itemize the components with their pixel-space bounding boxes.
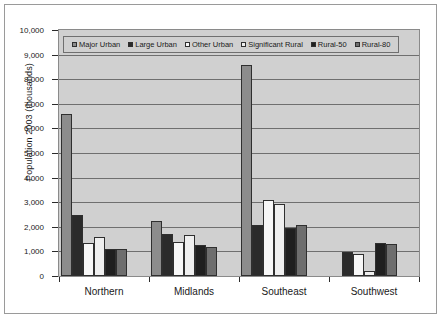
legend-label: Rural-50 [318, 40, 347, 49]
x-axis-tick-mark [329, 277, 330, 282]
y-axis-tick-mark [52, 55, 58, 56]
bar-group [149, 30, 239, 276]
y-axis-tick-label: 5,000 [0, 149, 44, 158]
legend-item: Major Urban [72, 40, 120, 49]
bar [274, 204, 285, 276]
x-axis-tick-mark [419, 277, 420, 282]
bar [296, 225, 307, 276]
y-axis-tick-label: 9,000 [0, 51, 44, 60]
y-axis-tick-mark [52, 227, 58, 228]
bar-group [239, 30, 329, 276]
y-axis-tick-mark [52, 104, 58, 105]
bar-group [59, 30, 149, 276]
legend-item: Other Urban [185, 40, 233, 49]
y-axis-tick-label: 0 [0, 272, 44, 281]
bar [94, 237, 105, 276]
bar [342, 252, 353, 276]
y-axis-tick-label: 2,000 [0, 223, 44, 232]
x-axis-category-label: Southeast [239, 286, 329, 297]
legend-label: Large Urban [135, 40, 177, 49]
legend-swatch-icon [185, 42, 190, 47]
bar-group [329, 30, 419, 276]
legend-swatch-icon [355, 42, 360, 47]
bar [195, 245, 206, 276]
chart-frame: Population 2003 (thousands) 10,0009,0008… [4, 4, 437, 314]
y-axis-tick-label: 4,000 [0, 174, 44, 183]
bar [72, 215, 83, 277]
bars-layer [59, 30, 419, 276]
y-axis-tick-label: 3,000 [0, 198, 44, 207]
bar [151, 221, 162, 276]
y-axis-tick-mark [52, 30, 58, 31]
x-axis-tick-mark [59, 277, 60, 282]
y-axis-tick-label: 7,000 [0, 100, 44, 109]
bar [386, 244, 397, 276]
y-axis-tick-mark [52, 202, 58, 203]
x-axis-tick-mark [239, 277, 240, 282]
x-axis-tick-mark [149, 277, 150, 282]
y-axis-tick-mark [52, 251, 58, 252]
legend-item: Rural-80 [355, 40, 391, 49]
legend-label: Significant Rural [248, 40, 303, 49]
bar [105, 249, 116, 276]
bar [285, 228, 296, 276]
bar [61, 114, 72, 276]
bar [364, 271, 375, 276]
legend-swatch-icon [311, 42, 316, 47]
bar [162, 234, 173, 276]
chart-legend: Major UrbanLarge UrbanOther UrbanSignifi… [63, 36, 399, 53]
legend-swatch-icon [72, 42, 77, 47]
bar [353, 254, 364, 276]
y-axis-tick-mark [52, 128, 58, 129]
bar [252, 225, 263, 276]
legend-item: Significant Rural [241, 40, 303, 49]
legend-label: Major Urban [79, 40, 120, 49]
legend-item: Large Urban [128, 40, 177, 49]
bar [116, 249, 127, 276]
y-axis-tick-label: 10,000 [0, 26, 44, 35]
x-axis-category-label: Southwest [329, 286, 419, 297]
y-axis-tick-mark [52, 79, 58, 80]
bar [263, 200, 274, 276]
bar [375, 243, 386, 276]
x-axis-category-label: Northern [59, 286, 149, 297]
x-axis-category-label: Midlands [149, 286, 239, 297]
bar [206, 247, 217, 276]
legend-item: Rural-50 [311, 40, 347, 49]
legend-swatch-icon [128, 42, 133, 47]
legend-label: Rural-80 [362, 40, 391, 49]
bar [241, 65, 252, 276]
legend-label: Other Urban [192, 40, 233, 49]
y-axis-tick-mark [52, 153, 58, 154]
bar [184, 235, 195, 276]
legend-swatch-icon [241, 42, 246, 47]
bar [83, 243, 94, 276]
bar [173, 242, 184, 276]
y-axis-tick-label: 6,000 [0, 124, 44, 133]
y-axis-tick-label: 1,000 [0, 247, 44, 256]
y-axis-tick-mark [52, 276, 58, 277]
y-axis-tick-mark [52, 178, 58, 179]
y-axis-tick-label: 8,000 [0, 75, 44, 84]
